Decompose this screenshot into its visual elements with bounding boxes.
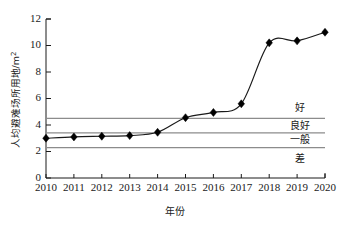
y-tick-label: 4 [36,118,42,130]
x-tick-label: 2020 [314,181,337,193]
y-axis-title: 人均避难场所用地/m2 [10,52,21,149]
series-line [46,32,325,138]
axis-lines [46,19,325,178]
line-chart: 人均避难场所用地/m2 024681012 201020112012201320… [0,0,343,226]
x-axis-ticks: 2010201120122013201420152016201720182019… [35,174,337,193]
y-tick-label: 10 [30,38,42,50]
x-tick-label: 2017 [230,181,253,193]
zone-label: 差 [295,152,305,164]
x-axis-title: 年份 [165,205,185,217]
zone-label: 良好 [290,119,310,131]
y-tick-label: 2 [36,144,42,156]
x-tick-label: 2014 [147,181,170,193]
data-point-marker [294,37,301,45]
x-tick-label: 2015 [175,181,198,193]
data-point-marker [71,133,78,141]
x-tick-label: 2018 [258,181,281,193]
x-tick-label: 2016 [202,181,225,193]
data-point-marker [43,134,50,142]
y-axis-title-text: 人均避难场所用地/m [10,56,21,148]
threshold-lines [47,118,325,147]
chart-figure: 人均避难场所用地/m2 024681012 201020112012201320… [0,0,343,226]
zone-label: 好 [295,102,305,113]
data-point-markers [43,28,329,142]
x-tick-label: 2010 [35,181,58,193]
x-tick-label: 2012 [91,181,113,193]
x-tick-label: 2019 [286,181,309,193]
y-tick-label: 6 [36,91,42,103]
svg-text:人均避难场所用地/m2: 人均避难场所用地/m2 [10,52,21,149]
zone-label: 一般 [290,133,310,145]
data-point-marker [182,114,189,122]
y-tick-label: 12 [30,12,41,24]
data-point-marker [210,108,217,116]
x-tick-label: 2011 [63,181,85,193]
y-axis-title-superscript: 2 [10,52,18,56]
x-tick-label: 2013 [119,181,142,193]
y-tick-label: 8 [36,65,42,77]
data-point-marker [322,28,329,36]
y-axis-ticks: 024681012 [30,12,51,183]
data-point-marker [154,128,161,136]
series-line-group [46,32,325,138]
